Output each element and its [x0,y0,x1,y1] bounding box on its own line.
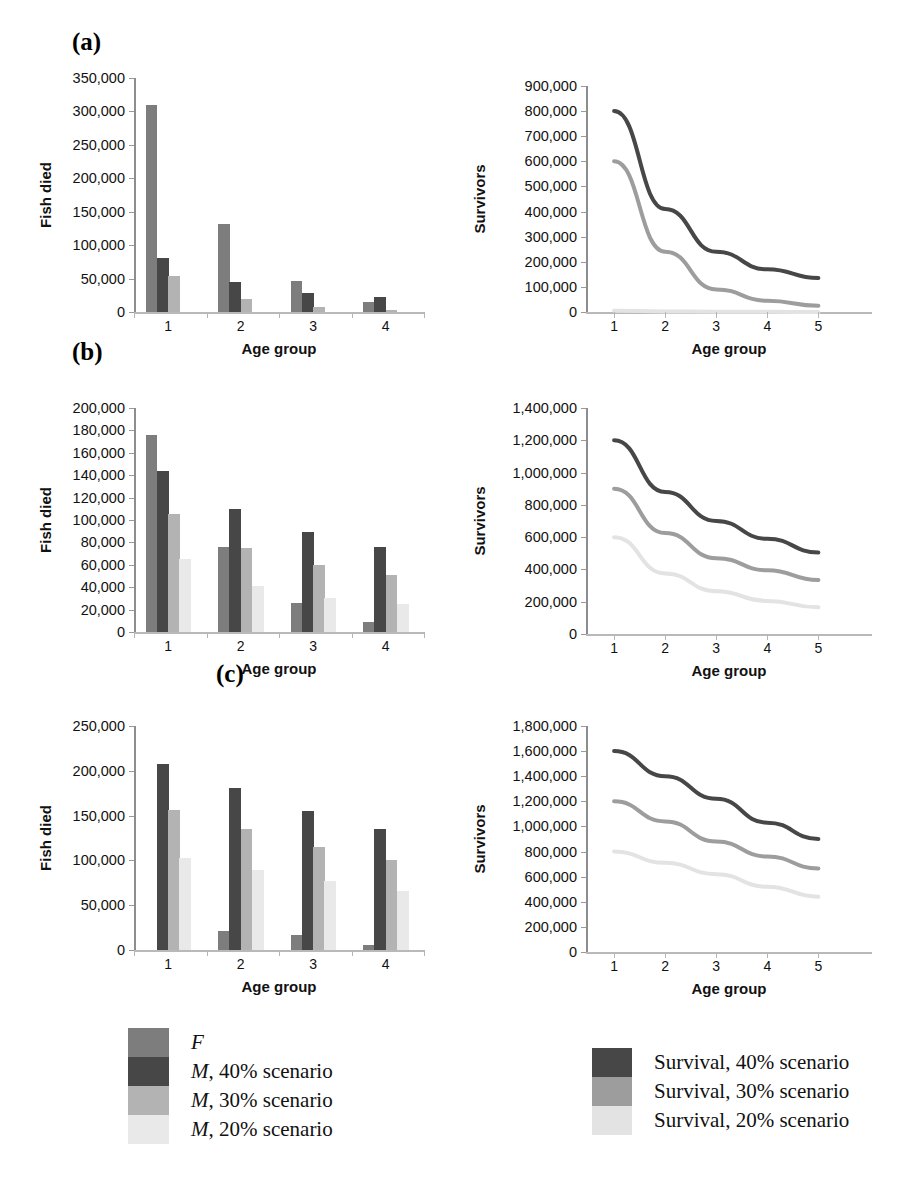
figure-root: (a) 050,000100,000150,000200,000250,0003… [0,0,905,1196]
y-tick-label: 200,000 [52,400,125,416]
y-tick-label: 200,000 [52,763,125,779]
y-tick-label: 400,000 [486,204,577,220]
y-tick-label: 1,400,000 [486,768,577,784]
legend-swatch [592,1106,632,1135]
y-tick-label: 0 [486,304,577,320]
bar [374,297,386,312]
x-tick-label: 1 [610,640,618,656]
y-tick-label: 200,000 [486,919,577,935]
x-tick-label: 3 [712,318,720,334]
bar [218,224,230,312]
x-tick-label: 4 [382,638,390,654]
y-tick-label: 0 [486,626,577,642]
x-tick-mark [207,950,208,956]
y-tick-label: 120,000 [52,490,125,506]
x-tick-label: 3 [712,958,720,974]
bar [146,435,158,632]
x-tick-label: 1 [610,958,618,974]
y-tick-label: 200,000 [486,254,577,270]
legend-item: Survival, 30% scenario [592,1077,849,1106]
chart-b-lines: 0200,000400,000600,000800,0001,000,0001,… [486,400,886,682]
y-tick-label: 350,000 [52,70,125,86]
y-tick-label: 0 [52,624,125,640]
y-tick-label: 50,000 [52,271,125,287]
bar [157,258,169,312]
x-tick-mark [134,312,135,318]
bar [324,598,336,632]
bar [397,891,409,950]
y-tick-label: 500,000 [486,178,577,194]
bar [386,575,398,632]
x-tick-label: 1 [164,956,172,972]
x-axis-title: Age group [134,340,424,357]
bar [302,532,314,632]
bar [313,565,325,632]
chart-c-lines: 0200,000400,000600,000800,0001,000,0001,… [486,718,886,1000]
x-tick-label: 3 [309,638,317,654]
bar [252,870,264,950]
bar [302,293,314,312]
bar [229,282,241,312]
y-tick-label: 800,000 [486,844,577,860]
bar [218,931,230,950]
y-tick-label: 180,000 [52,422,125,438]
x-tick-label: 2 [237,956,245,972]
legend-swatch [128,1028,169,1057]
y-tick-label: 1,200,000 [486,793,577,809]
x-tick-label: 1 [164,638,172,654]
y-tick-label: 250,000 [52,718,125,734]
legend-swatch [128,1057,169,1086]
data-line [614,111,818,278]
legend-bar-charts: FM, 40% scenarioM, 30% scenarioM, 20% sc… [128,1028,333,1144]
x-tick-label: 5 [814,318,822,334]
y-axis-title: Fish died [37,805,54,871]
data-line [614,440,818,552]
bar [374,829,386,950]
line-plot-area [586,86,872,312]
bar [386,310,398,312]
y-tick-label: 600,000 [486,529,577,545]
x-tick-mark [352,312,353,318]
x-tick-mark [352,950,353,956]
bar [313,307,325,312]
chart-c-bars: 050,000100,000150,000200,000250,000Fish … [52,718,432,998]
bar [168,810,180,950]
bar [252,586,264,632]
chart-a-lines: 0100,000200,000300,000400,000500,000600,… [486,78,886,360]
y-tick-label: 800,000 [486,497,577,513]
legend-swatch [128,1115,169,1144]
y-axis-title: Survivors [471,164,488,233]
legend-item: F [128,1028,333,1057]
y-tick-label: 150,000 [52,808,125,824]
bar [291,603,303,632]
legend-item: Survival, 20% scenario [592,1106,849,1135]
bar [241,548,253,632]
x-axis-line [586,952,872,954]
y-tick-label: 40,000 [52,579,125,595]
y-tick-label: 140,000 [52,467,125,483]
y-tick-label: 200,000 [486,594,577,610]
panel-label-b: (b) [72,338,103,366]
bar-plot-area [134,408,424,632]
bar [146,105,158,312]
y-tick-label: 20,000 [52,602,125,618]
bar [229,788,241,950]
y-tick-mark [581,312,586,313]
y-tick-label: 100,000 [52,512,125,528]
x-tick-label: 1 [610,318,618,334]
bar-plot-area [134,78,424,312]
x-tick-label: 2 [237,318,245,334]
bar [179,559,191,632]
y-tick-label: 0 [52,942,125,958]
y-tick-label: 600,000 [486,869,577,885]
y-tick-label: 1,800,000 [486,718,577,734]
bar [168,276,180,312]
x-tick-label: 4 [763,640,771,656]
bar [397,604,409,632]
x-tick-label: 3 [309,318,317,334]
bar [218,547,230,632]
legend-label: Survival, 40% scenario [654,1050,849,1075]
x-tick-mark [207,312,208,318]
panel-label-c: (c) [216,660,244,688]
bar-plot-area [134,726,424,950]
